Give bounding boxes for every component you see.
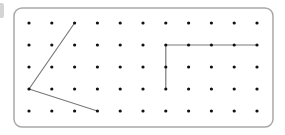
grid-dot [119, 21, 122, 24]
grid-dot [210, 65, 213, 68]
grid-dot [233, 65, 236, 68]
grid-dot [255, 21, 258, 24]
grid-dot [233, 87, 236, 90]
grid-dot [73, 109, 76, 112]
grid-dot [233, 21, 236, 24]
grid-dot [187, 109, 190, 112]
grid-dot [255, 65, 258, 68]
grid-dot [164, 87, 167, 90]
grid-dot [210, 21, 213, 24]
grid-dot [73, 87, 76, 90]
grid-dot [50, 43, 53, 46]
grid-dot [187, 65, 190, 68]
grid-dot [96, 21, 99, 24]
grid-dot [119, 65, 122, 68]
grid-dot [141, 65, 144, 68]
grid-dot [164, 65, 167, 68]
dot-grid-diagram [0, 0, 285, 135]
grid-dot [27, 65, 30, 68]
grid-dot [233, 43, 236, 46]
grid-dot [233, 109, 236, 112]
grid-dot [141, 43, 144, 46]
grid-dot [50, 87, 53, 90]
grid-dot [27, 109, 30, 112]
grid-dot [119, 87, 122, 90]
grid-dot [96, 43, 99, 46]
grid-dot [50, 21, 53, 24]
grid-dot [50, 109, 53, 112]
grid-dots [27, 21, 258, 112]
grid-dot [164, 21, 167, 24]
grid-dot [210, 109, 213, 112]
grid-dot [210, 87, 213, 90]
grid-dot [255, 87, 258, 90]
grid-dot [141, 87, 144, 90]
grid-dot [141, 109, 144, 112]
grid-dot [27, 43, 30, 46]
grid-dot [27, 87, 30, 90]
grid-dot [164, 43, 167, 46]
grid-dot [187, 21, 190, 24]
acute-angle [29, 23, 97, 111]
grid-dot [96, 65, 99, 68]
grid-dot [187, 43, 190, 46]
grid-dot [27, 21, 30, 24]
grid-dot [96, 109, 99, 112]
grid-dot [119, 43, 122, 46]
grid-dot [73, 43, 76, 46]
grid-dot [255, 43, 258, 46]
grid-dot [96, 87, 99, 90]
grid-dot [255, 109, 258, 112]
grid-dot [73, 65, 76, 68]
grid-dot [50, 65, 53, 68]
grid-dot [210, 43, 213, 46]
grid-dot [164, 109, 167, 112]
grid-dot [141, 21, 144, 24]
grid-dot [187, 87, 190, 90]
grid-dot [119, 109, 122, 112]
grid-dot [73, 21, 76, 24]
